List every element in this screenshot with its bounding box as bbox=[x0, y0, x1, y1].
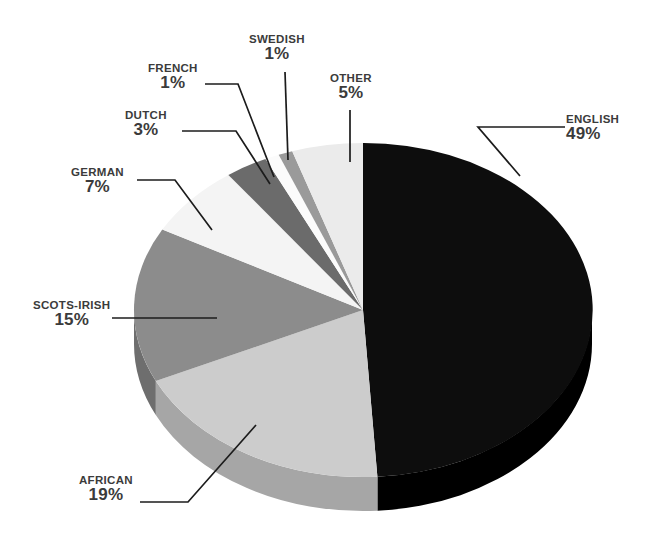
slice-label-french-value: 1% bbox=[148, 74, 198, 92]
slice-label-dutch-value: 3% bbox=[125, 121, 167, 139]
slice-label-dutch: DUTCH 3% bbox=[125, 109, 167, 139]
slice-label-french: FRENCH 1% bbox=[148, 62, 198, 92]
slice-label-swedish-value: 1% bbox=[249, 45, 305, 63]
slice-label-swedish: SWEDISH 1% bbox=[249, 33, 305, 63]
slice-label-scots-irish: SCOTS-IRISH 15% bbox=[33, 299, 110, 329]
slice-label-english: ENGLISH 49% bbox=[566, 113, 619, 143]
slice-label-african: AFRICAN 19% bbox=[79, 474, 133, 504]
slice-label-english-value: 49% bbox=[566, 125, 619, 143]
slice-label-german-value: 7% bbox=[71, 178, 124, 196]
pie-chart-figure: ENGLISH 49% OTHER 5% SWEDISH 1% FRENCH 1… bbox=[0, 0, 659, 549]
slice-label-scots-irish-value: 15% bbox=[33, 311, 110, 329]
slice-label-german: GERMAN 7% bbox=[71, 166, 124, 196]
pie-top-face bbox=[134, 143, 593, 477]
slice-label-other-value: 5% bbox=[330, 84, 372, 102]
slice-label-african-value: 19% bbox=[79, 486, 133, 504]
slice-label-other: OTHER 5% bbox=[330, 72, 372, 102]
leader-line-english bbox=[478, 127, 565, 176]
leader-line-swedish bbox=[285, 72, 288, 160]
